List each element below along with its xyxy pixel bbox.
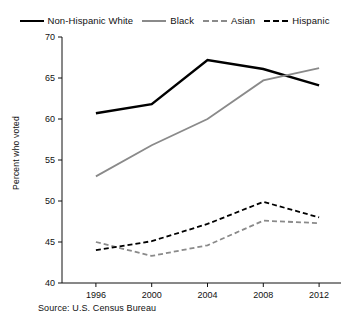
chart-figure: Non-Hispanic White Black Asian Hispanic …	[0, 0, 349, 323]
x-tick-label: 1996	[86, 290, 106, 300]
series-layer	[96, 60, 319, 256]
y-tick-label: 50	[45, 196, 55, 206]
y-tick-label: 70	[45, 32, 55, 42]
x-tick-label: 2008	[253, 290, 273, 300]
y-tick-label: 45	[45, 237, 55, 247]
series-line-non-hispanic-white	[96, 60, 319, 113]
x-tick-label: 2012	[309, 290, 329, 300]
y-tick-label: 65	[45, 73, 55, 83]
y-tick-label: 40	[45, 278, 55, 288]
chart-plot-area: 4045505560657019962000200420082012	[0, 0, 349, 323]
series-line-asian	[96, 221, 319, 256]
tick-label-layer: 4045505560657019962000200420082012	[45, 32, 329, 300]
x-tick-label: 2000	[142, 290, 162, 300]
x-tick-label: 2004	[197, 290, 217, 300]
series-line-hispanic	[96, 202, 319, 250]
series-line-black	[96, 68, 319, 176]
y-tick-label: 55	[45, 155, 55, 165]
y-tick-label: 60	[45, 114, 55, 124]
source-note: Source: U.S. Census Bureau	[38, 303, 156, 313]
